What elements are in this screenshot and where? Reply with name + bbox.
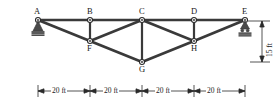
- member-G-H: [142, 41, 194, 62]
- joint-D-center: [193, 19, 195, 21]
- truss-svg: [0, 0, 276, 105]
- vdim-arrow-bottom: [260, 56, 264, 62]
- member-C-H: [142, 20, 194, 41]
- member-F-G: [90, 41, 142, 62]
- joint-label-C: C: [139, 7, 145, 16]
- joint-G-center: [141, 61, 143, 63]
- dimension-label-span-4: 20 ft: [206, 87, 222, 95]
- dimension-label-span-1: 20 ft: [51, 87, 67, 95]
- dimension-label-height: 15 ft: [266, 43, 274, 57]
- joint-B-center: [89, 19, 91, 21]
- truss-diagram: A B C D E F G H 20 ft 20 ft 20 ft 20 ft …: [0, 0, 276, 105]
- joint-label-D: D: [191, 7, 197, 16]
- joint-label-B: B: [87, 7, 93, 16]
- dimension-label-span-3: 20 ft: [155, 87, 171, 95]
- joint-label-A: A: [34, 7, 40, 16]
- joint-label-E: E: [242, 7, 247, 16]
- member-C-F: [90, 20, 142, 41]
- member-A-F: [38, 20, 90, 41]
- joint-label-G: G: [139, 65, 145, 74]
- joint-C-center: [141, 19, 143, 21]
- dim-arrow-2l: [90, 89, 96, 93]
- vdim-arrow-top: [260, 21, 264, 27]
- dimension-label-span-2: 20 ft: [103, 87, 119, 95]
- member-H-E: [194, 20, 245, 41]
- truss-members: [38, 20, 245, 62]
- joint-label-H: H: [191, 44, 197, 53]
- dim-arrow-3l: [142, 89, 148, 93]
- dim-arrow-4l: [194, 89, 200, 93]
- dim-arrow-4r: [239, 89, 245, 93]
- joint-label-F: F: [87, 44, 92, 53]
- joint-H-center: [193, 40, 195, 42]
- joint-F-center: [89, 40, 91, 42]
- dim-arrow-1l: [38, 89, 44, 93]
